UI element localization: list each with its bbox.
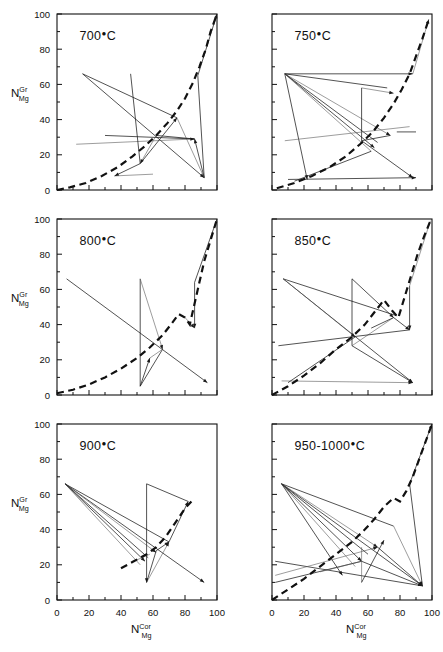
y-tick-label: 0 xyxy=(45,185,50,196)
panel-temperature-label: 850●C xyxy=(294,234,331,248)
x-tick-label: 40 xyxy=(331,607,342,618)
panel-p700: 700●C020406080100NGrMg xyxy=(57,14,251,224)
tieline xyxy=(282,484,394,526)
tieline xyxy=(177,118,204,178)
panel-temperature-label: 700●C xyxy=(79,29,116,43)
figure-root: 700●C020406080100NGrMg750●C800●C02040608… xyxy=(0,0,443,652)
binodal-curve xyxy=(277,19,429,188)
y-tick-label: 60 xyxy=(39,284,50,295)
tieline xyxy=(115,174,153,176)
tieline xyxy=(282,484,343,576)
x-axis-title: NCorMg xyxy=(346,622,367,640)
tieline xyxy=(362,540,384,582)
y-tick-label: 20 xyxy=(39,559,50,570)
panel-p800: 800●C020406080100NGrMg xyxy=(57,219,251,429)
y-tick-label: 60 xyxy=(39,489,50,500)
tieline xyxy=(410,221,431,286)
tieline xyxy=(147,484,189,502)
tieline xyxy=(76,139,194,144)
panel-plot-p750: 750●C xyxy=(272,14,443,224)
tieline xyxy=(285,74,378,143)
tieline xyxy=(83,74,177,118)
tieline xyxy=(282,484,423,586)
tieline xyxy=(65,484,148,558)
tieline xyxy=(285,74,387,88)
y-tick-label: 100 xyxy=(34,9,50,20)
tieline xyxy=(362,88,394,93)
y-tick-label: 20 xyxy=(39,354,50,365)
x-axis-title: NCorMg xyxy=(131,622,152,640)
tieline xyxy=(65,484,140,565)
panel-temperature-label: 750●C xyxy=(294,29,331,43)
tieline xyxy=(140,118,177,164)
panel-p850: 850●C xyxy=(272,219,443,429)
y-tick-label: 100 xyxy=(34,214,50,225)
tieline-group xyxy=(65,484,204,583)
x-tick-label: 80 xyxy=(395,607,406,618)
x-tick-label: 20 xyxy=(299,607,310,618)
tieline xyxy=(352,279,394,318)
tieline xyxy=(285,127,410,141)
tieline xyxy=(352,346,413,383)
x-tick-label: 0 xyxy=(54,607,59,618)
panel-temperature-label: 800●C xyxy=(79,234,116,248)
panel-temperature-label: 900●C xyxy=(79,439,116,453)
tieline xyxy=(394,526,423,586)
tieline xyxy=(83,74,205,178)
tieline xyxy=(65,484,145,561)
x-tick-label: 0 xyxy=(269,607,274,618)
tieline xyxy=(65,484,169,542)
tieline xyxy=(275,561,422,586)
x-tick-label: 40 xyxy=(116,607,127,618)
tieline xyxy=(65,484,204,583)
tieline xyxy=(147,551,157,583)
tieline xyxy=(65,484,156,553)
tieline xyxy=(140,349,162,386)
tieline xyxy=(378,547,423,586)
panel-plot-p850: 850●C xyxy=(272,219,443,429)
y-tick-label: 0 xyxy=(45,390,50,401)
tieline xyxy=(410,484,423,586)
y-tick-label: 0 xyxy=(45,595,50,606)
y-tick-label: 60 xyxy=(39,79,50,90)
tieline xyxy=(362,141,413,178)
tieline xyxy=(320,561,362,572)
tieline xyxy=(105,135,195,139)
y-tick-label: 80 xyxy=(39,454,50,465)
panel-p9501000: 950-1000●C020406080100NCorMg xyxy=(272,424,443,634)
y-axis-title: NGrMg xyxy=(11,290,29,308)
tieline xyxy=(282,381,413,383)
x-tick-label: 80 xyxy=(180,607,191,618)
y-tick-label: 40 xyxy=(39,114,50,125)
y-axis-title: NGrMg xyxy=(11,85,29,103)
tieline xyxy=(371,318,393,329)
tieline xyxy=(283,279,355,337)
panel-plot-p700: 700●C020406080100NGrMg xyxy=(57,14,251,224)
tieline-group xyxy=(285,19,429,181)
panel-temperature-label: 950-1000●C xyxy=(294,439,365,453)
panel-p900: 900●C020406080100NGrMg020406080100NCorMg xyxy=(57,424,251,634)
tieline xyxy=(150,349,163,358)
x-tick-label: 100 xyxy=(424,607,440,618)
tieline xyxy=(278,330,409,346)
panel-p750: 750●C xyxy=(272,14,443,224)
tieline xyxy=(195,219,217,282)
y-tick-label: 20 xyxy=(39,149,50,160)
panel-plot-p900: 900●C020406080100NGrMg020406080100NCorMg xyxy=(57,424,251,634)
y-tick-label: 40 xyxy=(39,524,50,535)
tieline xyxy=(283,279,397,316)
y-tick-label: 40 xyxy=(39,319,50,330)
tieline xyxy=(285,74,371,151)
x-tick-label: 60 xyxy=(363,607,374,618)
tieline xyxy=(169,501,188,541)
x-tick-label: 100 xyxy=(209,607,225,618)
y-tick-label: 80 xyxy=(39,249,50,260)
panel-plot-p9501000: 950-1000●C020406080100NCorMg xyxy=(272,424,443,634)
tieline xyxy=(282,484,362,561)
tieline xyxy=(67,279,208,383)
y-tick-label: 100 xyxy=(34,419,50,430)
tieline xyxy=(285,74,391,136)
x-tick-label: 60 xyxy=(148,607,159,618)
x-tick-label: 20 xyxy=(84,607,95,618)
y-tick-label: 80 xyxy=(39,44,50,55)
